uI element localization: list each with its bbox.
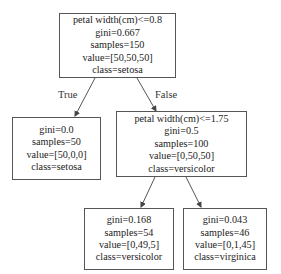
right-right-leaf-gini: gini=0.043 <box>203 214 248 226</box>
right-left-leaf-samples: samples=54 <box>105 227 154 239</box>
edge-root-to-right <box>137 78 156 111</box>
edge-label-true: True <box>58 89 77 101</box>
root-condition: petal width(cm)<=0.8 <box>73 14 162 26</box>
root-gini: gini=0.667 <box>95 27 140 39</box>
edge-split-to-right-leaf <box>186 177 201 207</box>
edge-root-to-left <box>75 78 95 116</box>
right-right-leaf-samples: samples=46 <box>201 227 250 239</box>
right-right-leaf-class: class=virginica <box>194 251 256 263</box>
right-split-samples: samples=100 <box>155 138 209 150</box>
right-right-leaf-value: value=[0,1,45] <box>195 239 255 251</box>
right-split-gini: gini=0.5 <box>164 125 198 137</box>
right-right-leaf-node: gini=0.043 samples=46 value=[0,1,45] cla… <box>183 208 267 270</box>
left-leaf-value: value=[50,0,0] <box>26 149 86 161</box>
right-left-leaf-gini: gini=0.168 <box>107 214 152 226</box>
edge-split-to-left-leaf <box>141 177 155 207</box>
left-leaf-samples: samples=50 <box>32 136 81 148</box>
left-leaf-class: class=setosa <box>31 161 81 173</box>
right-split-condition: petal width(cm)<=1.75 <box>134 113 228 125</box>
edge-label-false: False <box>155 89 177 101</box>
root-node: petal width(cm)<=0.8 gini=0.667 samples=… <box>59 13 176 78</box>
root-samples: samples=150 <box>91 39 145 51</box>
right-left-leaf-value: value=[0,49,5] <box>99 239 159 251</box>
right-left-leaf-class: class=versicolor <box>96 251 162 263</box>
right-split-value: value=[0,50,50] <box>149 150 214 162</box>
root-class: class=setosa <box>92 64 142 76</box>
root-value: value=[50,50,50] <box>82 52 152 64</box>
left-leaf-gini: gini=0.0 <box>39 124 73 136</box>
right-split-class: class=versicolor <box>148 163 214 175</box>
right-split-node: petal width(cm)<=1.75 gini=0.5 samples=1… <box>116 111 247 177</box>
left-leaf-node: gini=0.0 samples=50 value=[50,0,0] class… <box>12 117 101 180</box>
right-left-leaf-node: gini=0.168 samples=54 value=[0,49,5] cla… <box>84 208 174 270</box>
